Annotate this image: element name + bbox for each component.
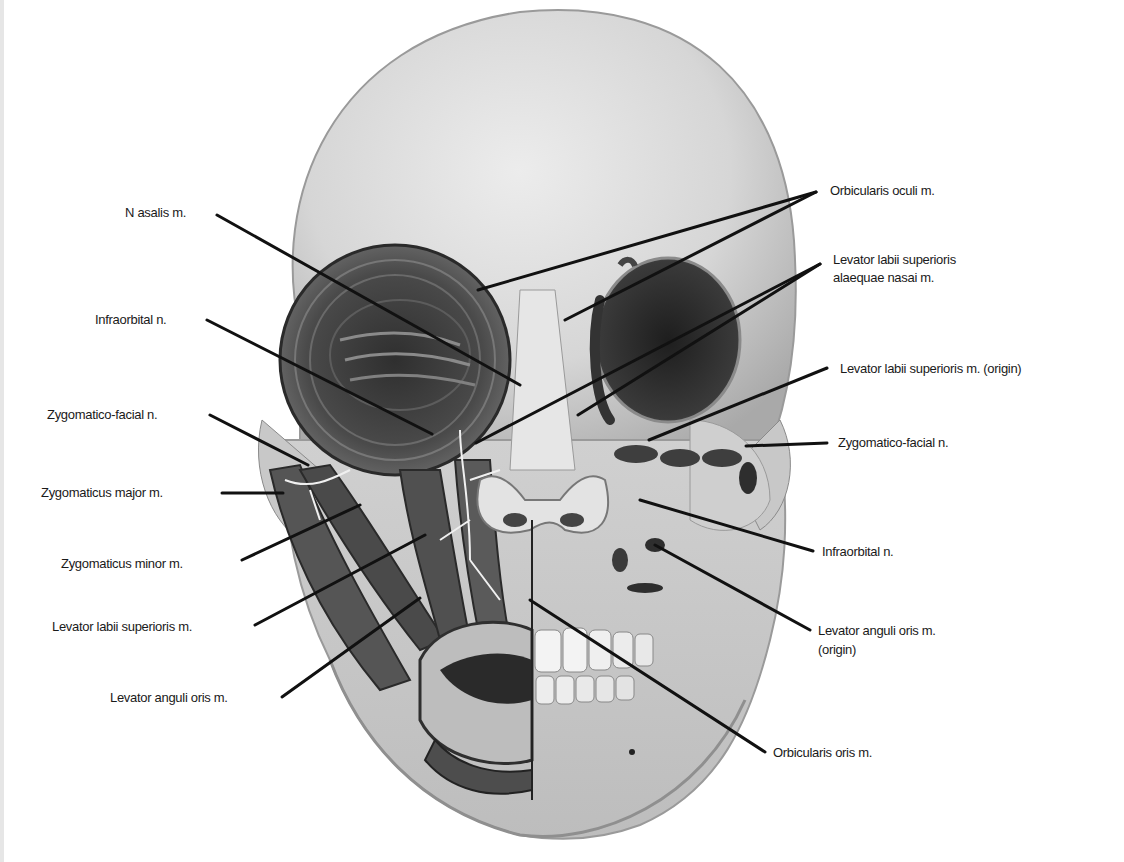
label-infraorbital-right: Infraorbital n. bbox=[822, 544, 893, 560]
right-orbit bbox=[595, 258, 740, 422]
label-infraorbital-left: Infraorbital n. bbox=[95, 312, 166, 328]
label-levator-labii-alaeque-line1: Levator labii superioris bbox=[833, 252, 956, 268]
label-levator-anguli-oris-origin-line1: Levator anguli oris m. bbox=[818, 623, 936, 639]
label-levator-anguli-oris: Levator anguli oris m. bbox=[110, 690, 228, 706]
label-levator-labii-superioris: Levator labii superioris m. bbox=[52, 619, 192, 635]
label-zygomatico-facial-right: Zygomatico-facial n. bbox=[838, 435, 948, 451]
label-levator-labii-superioris-origin: Levator labii superioris m. (origin) bbox=[840, 361, 1021, 377]
label-orbicularis-oris: Orbicularis oris m. bbox=[773, 745, 872, 761]
label-zygomaticus-minor: Zygomaticus minor m. bbox=[61, 556, 183, 572]
label-levator-labii-alaeque-line2: alaequae nasai m. bbox=[833, 270, 934, 286]
label-zygomatico-facial-left: Zygomatico-facial n. bbox=[47, 407, 157, 423]
label-nasalis: N asalis m. bbox=[125, 205, 186, 221]
label-levator-anguli-oris-origin-line2: (origin) bbox=[818, 642, 856, 658]
skull-illustration bbox=[0, 0, 1124, 862]
label-zygomaticus-major: Zygomaticus major m. bbox=[41, 485, 163, 501]
label-orbicularis-oculi: Orbicularis oculi m. bbox=[830, 183, 935, 199]
